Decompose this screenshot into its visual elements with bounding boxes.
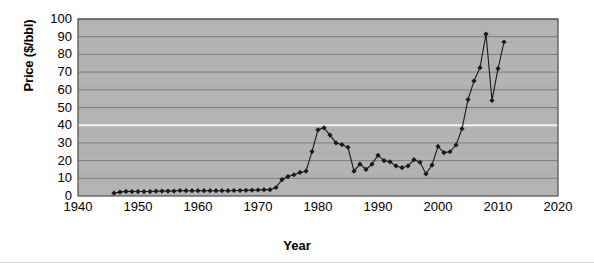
- plot-area: [0, 0, 594, 265]
- x-axis-title: Year: [0, 238, 594, 253]
- bottom-divider: [0, 262, 594, 263]
- chart-container: Price ($/bbl) 0102030405060708090100 194…: [0, 0, 594, 265]
